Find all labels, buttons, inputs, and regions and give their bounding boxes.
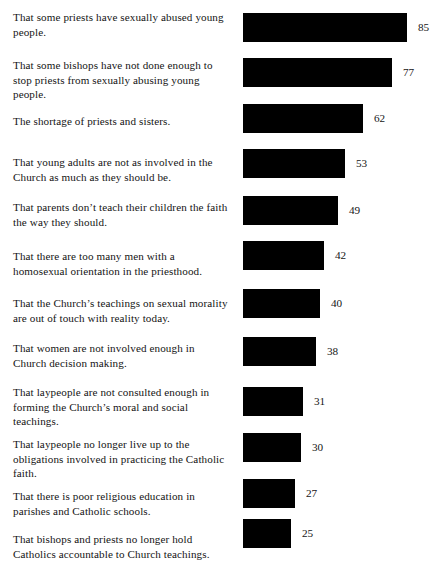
bar xyxy=(243,519,291,548)
bar-category-label: That there are too many men with a homos… xyxy=(13,249,235,278)
bar-category-label: That there is poor religious education i… xyxy=(13,489,235,518)
bar-group: 31 xyxy=(243,387,325,416)
bar-group: 25 xyxy=(243,519,313,548)
bar-value-label: 27 xyxy=(306,479,317,508)
bar xyxy=(243,289,320,318)
bar-value-label: 30 xyxy=(312,433,323,462)
bar-group: 42 xyxy=(243,241,346,270)
bar-value-label: 42 xyxy=(335,241,346,270)
bar-category-label: That parents don’t teach their children … xyxy=(13,200,235,229)
bar-value-label: 49 xyxy=(349,196,360,225)
bar xyxy=(243,241,324,270)
bar-value-label: 25 xyxy=(302,519,313,548)
bar-category-label: That bishops and priests no longer hold … xyxy=(13,532,235,561)
bar-value-label: 40 xyxy=(331,289,342,318)
bar-value-label: 38 xyxy=(327,337,338,366)
bar-value-label: 77 xyxy=(403,58,414,87)
bar-group: 49 xyxy=(243,196,360,225)
bar-value-label: 62 xyxy=(374,104,385,133)
bar-category-label: That laypeople are not consulted enough … xyxy=(13,385,235,429)
bar-group: 27 xyxy=(243,479,317,508)
bar-category-label: That some bishops have not done enough t… xyxy=(13,58,235,102)
bar-group: 85 xyxy=(243,13,429,42)
bar-category-label: That young adults are not as involved in… xyxy=(13,155,235,184)
bar-category-label: The shortage of priests and sisters. xyxy=(13,114,235,129)
bar-value-label: 53 xyxy=(356,149,367,178)
bar-group: 53 xyxy=(243,149,367,178)
bar-value-label: 85 xyxy=(418,13,429,42)
bar-category-label: That women are not involved enough in Ch… xyxy=(13,341,235,370)
bar xyxy=(243,387,303,416)
bar xyxy=(243,149,345,178)
bar xyxy=(243,13,407,42)
horizontal-bar-chart: That some priests have sexually abused y… xyxy=(0,0,447,561)
bar xyxy=(243,196,338,225)
bar xyxy=(243,58,392,87)
bar-value-label: 31 xyxy=(314,387,325,416)
bar xyxy=(243,104,363,133)
bar xyxy=(243,433,301,462)
bar xyxy=(243,337,316,366)
bar-group: 77 xyxy=(243,58,414,87)
bar-group: 40 xyxy=(243,289,342,318)
bar-group: 62 xyxy=(243,104,385,133)
bar-category-label: That laypeople no longer live up to the … xyxy=(13,437,235,481)
bar-group: 38 xyxy=(243,337,338,366)
bar-category-label: That some priests have sexually abused y… xyxy=(13,10,235,39)
bar-group: 30 xyxy=(243,433,323,462)
bar-category-label: That the Church’s teachings on sexual mo… xyxy=(13,296,235,325)
bar xyxy=(243,479,295,508)
